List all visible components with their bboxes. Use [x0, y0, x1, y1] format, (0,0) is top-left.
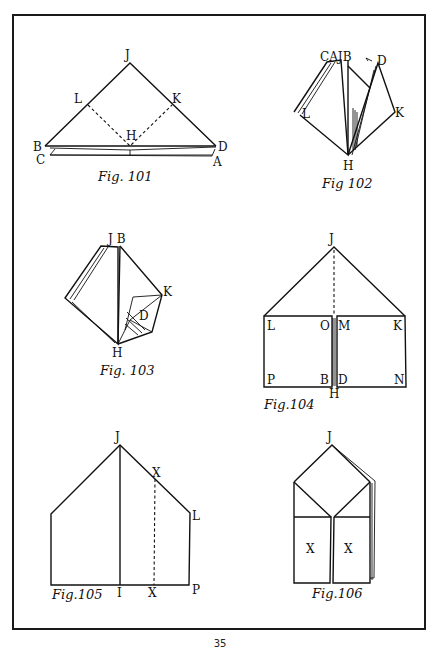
label-X-right: X — [344, 542, 353, 556]
label-K: K — [393, 319, 403, 333]
label-I: I — [117, 586, 122, 600]
figure-102: CAJB D L K H Fig 102 — [294, 50, 405, 191]
caption-fig-103: Fig. 103 — [99, 363, 155, 378]
label-H: H — [126, 129, 136, 143]
label-M: M — [338, 319, 350, 333]
diagram-canvas: J L K H B D C A Fig. 101 CAJB D L K H Fi… — [0, 0, 440, 658]
label-L: L — [302, 107, 310, 121]
label-K: K — [395, 106, 405, 120]
label-D: D — [338, 373, 348, 387]
label-J: J — [113, 430, 120, 444]
label-P: P — [267, 373, 275, 387]
label-L: L — [74, 92, 82, 106]
label-CAJB: CAJB — [320, 50, 352, 64]
label-H: H — [329, 387, 339, 401]
caption-fig-106: Fig.106 — [311, 586, 362, 601]
figure-103: J B K D H Fig. 103 — [65, 232, 173, 378]
label-C: C — [36, 153, 45, 167]
label-D: D — [377, 54, 387, 68]
label-N: N — [394, 373, 405, 387]
label-J: J — [325, 430, 332, 444]
label-JB: J B — [106, 232, 126, 246]
label-J: J — [327, 232, 334, 246]
label-O: O — [320, 319, 330, 333]
figure-105: J X L I X P Fig.105 — [51, 430, 200, 602]
figure-106: J X X Fig.106 — [294, 430, 375, 601]
label-P: P — [192, 583, 200, 597]
label-J: J — [123, 48, 130, 62]
label-X-left: X — [306, 542, 315, 556]
label-X-top: X — [152, 466, 161, 480]
label-A: A — [212, 155, 222, 169]
label-X-bottom: X — [148, 586, 157, 600]
caption-fig-101: Fig. 101 — [97, 169, 153, 184]
label-K: K — [163, 285, 173, 299]
label-L: L — [192, 509, 200, 523]
label-H: H — [343, 159, 353, 173]
label-L: L — [267, 319, 275, 333]
page-number: 35 — [0, 638, 440, 649]
figure-104: J L O M K P B D N H Fig.104 — [263, 232, 406, 412]
caption-fig-102: Fig 102 — [321, 176, 372, 191]
label-D: D — [139, 309, 149, 323]
caption-fig-105: Fig.105 — [51, 587, 102, 602]
label-B: B — [320, 373, 329, 387]
label-K: K — [172, 92, 182, 106]
label-B: B — [33, 140, 42, 154]
label-H: H — [112, 346, 122, 360]
label-D: D — [218, 140, 228, 154]
caption-fig-104: Fig.104 — [263, 397, 314, 412]
figure-101: J L K H B D C A Fig. 101 — [33, 48, 228, 184]
